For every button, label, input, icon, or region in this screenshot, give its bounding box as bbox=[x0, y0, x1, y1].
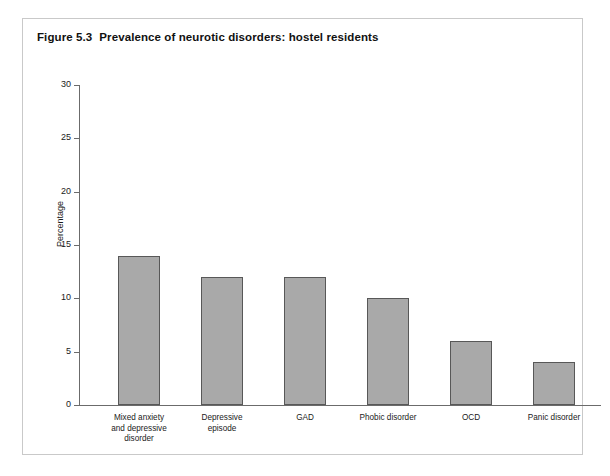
y-tick-mark bbox=[74, 405, 79, 406]
bar bbox=[284, 277, 326, 405]
x-axis-label: Panic disorder bbox=[509, 413, 599, 424]
y-tick-mark bbox=[74, 192, 79, 193]
y-tick-label: 5 bbox=[49, 346, 71, 356]
bar bbox=[450, 341, 492, 405]
x-axis-line bbox=[79, 405, 601, 406]
y-tick-mark bbox=[74, 85, 79, 86]
y-tick-label: 10 bbox=[49, 292, 71, 302]
y-tick-mark bbox=[74, 245, 79, 246]
y-tick-label: 25 bbox=[49, 132, 71, 142]
chart-plot-area: 051015202530 Mixed anxiety and depressiv… bbox=[79, 67, 601, 407]
figure-card: Figure 5.3Prevalence of neurotic disorde… bbox=[22, 18, 583, 455]
y-tick-mark bbox=[74, 298, 79, 299]
figure-title-text: Prevalence of neurotic disorders: hostel… bbox=[99, 31, 378, 43]
y-tick-label: 30 bbox=[49, 79, 71, 89]
y-tick-label: 0 bbox=[49, 399, 71, 409]
figure-title: Figure 5.3Prevalence of neurotic disorde… bbox=[37, 31, 379, 43]
y-axis-line bbox=[79, 85, 80, 405]
bar bbox=[118, 256, 160, 405]
x-axis-label: GAD bbox=[260, 413, 350, 424]
y-tick-label: 20 bbox=[49, 186, 71, 196]
figure-number: Figure 5.3 bbox=[37, 31, 92, 43]
x-axis-label: Mixed anxiety and depressive disorder bbox=[94, 413, 184, 445]
x-axis-label: OCD bbox=[426, 413, 516, 424]
y-axis-title: Percentage bbox=[55, 201, 65, 247]
x-axis-label: Depressive episode bbox=[177, 413, 267, 434]
bar bbox=[201, 277, 243, 405]
x-axis-label: Phobic disorder bbox=[343, 413, 433, 424]
bar bbox=[367, 298, 409, 405]
bar bbox=[533, 362, 575, 405]
y-tick-mark bbox=[74, 352, 79, 353]
y-tick-mark bbox=[74, 138, 79, 139]
